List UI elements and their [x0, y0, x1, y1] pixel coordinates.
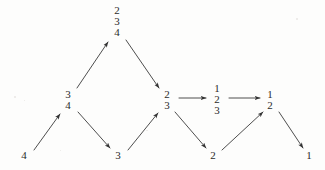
graph-node-n4: 4 — [21, 150, 27, 161]
node-label-line: 4 — [65, 100, 71, 111]
edge-arrow-n34-to-n3 — [78, 112, 110, 148]
graph-node-n3: 3 — [115, 150, 121, 161]
graph-node-n123: 123 — [214, 83, 220, 117]
graph-node-n1: 1 — [306, 150, 312, 161]
edge-arrow-n3-to-n23 — [128, 113, 158, 150]
edge-arrow-n4-to-n34 — [34, 114, 60, 150]
diagram-canvas: 4342343231232121 — [0, 0, 325, 170]
edge-arrow-n2-to-n12 — [222, 112, 263, 150]
node-label-line: 4 — [114, 28, 120, 39]
graph-node-n234: 234 — [114, 5, 120, 39]
graph-node-n2: 2 — [210, 150, 216, 161]
graph-node-n23: 23 — [164, 89, 170, 111]
edge-arrow-n12-to-n1 — [279, 112, 303, 148]
graph-node-n12: 12 — [267, 89, 273, 111]
node-label-line: 2 — [210, 150, 216, 161]
node-label-line: 2 — [267, 100, 273, 111]
edge-arrow-n34-to-n234 — [77, 42, 108, 88]
graph-node-n34: 34 — [65, 89, 71, 111]
node-label-line: 1 — [306, 150, 312, 161]
edge-arrow-n234-to-n23 — [126, 40, 159, 88]
edge-arrow-n23-to-n2 — [175, 112, 206, 148]
node-label-line: 4 — [21, 150, 27, 161]
node-label-line: 3 — [115, 150, 121, 161]
edge-layer — [0, 0, 325, 170]
node-label-line: 3 — [214, 106, 220, 117]
node-label-line: 3 — [164, 100, 170, 111]
